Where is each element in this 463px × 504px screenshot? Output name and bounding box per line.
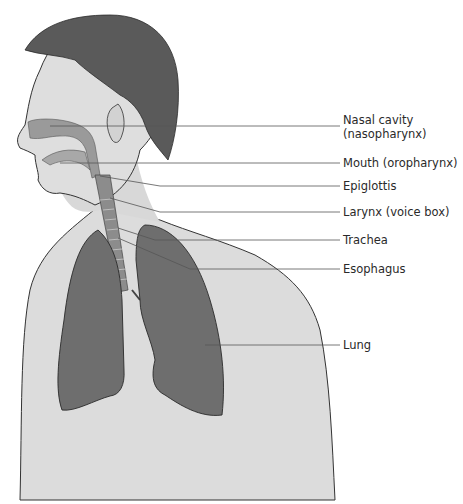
label-nasal-line1: Nasal cavity xyxy=(343,113,427,127)
respiratory-diagram xyxy=(0,0,463,504)
label-esophagus: Esophagus xyxy=(343,262,406,276)
label-nasal-line2: (nasopharynx) xyxy=(343,127,427,141)
label-lung: Lung xyxy=(343,338,371,352)
label-trachea: Trachea xyxy=(343,233,388,247)
label-mouth: Mouth (oropharynx) xyxy=(343,156,457,170)
label-nasal-cavity: Nasal cavity (nasopharynx) xyxy=(343,113,427,141)
label-larynx: Larynx (voice box) xyxy=(343,205,450,219)
label-epiglottis: Epiglottis xyxy=(343,179,397,193)
